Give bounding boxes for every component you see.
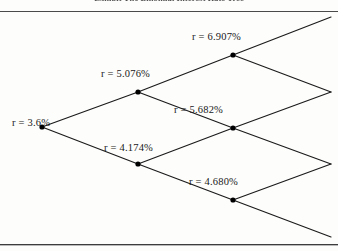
figure-caption: Exhibit The Binomial Interest Rate Tree — [0, 0, 338, 3]
rate-label-down-2: r = 4.680% — [189, 176, 238, 187]
branch-n2u-down — [233, 55, 331, 92]
rate-label-up-2: r = 6.907% — [192, 31, 241, 42]
node-down-2[interactable] — [230, 197, 235, 202]
rate-label-root: r = 3.6% — [12, 117, 50, 128]
rate-label-mid-2: r = 5.682% — [174, 104, 223, 115]
rate-label-up-1: r = 5.076% — [101, 68, 150, 79]
branch-n0-n1u — [42, 92, 138, 127]
branch-n2u-up — [233, 17, 331, 55]
node-down-1[interactable] — [135, 161, 140, 166]
rate-label-down-1: r = 4.174% — [104, 142, 153, 153]
branch-n2m-up — [233, 92, 331, 128]
bottom-rule-shadow — [0, 245, 338, 246]
branch-n1u-n2u — [138, 55, 233, 92]
binomial-tree-svg — [0, 11, 338, 244]
node-up-1[interactable] — [135, 89, 140, 94]
binomial-tree-canvas: r = 3.6% r = 5.076% r = 4.174% r = 6.907… — [0, 11, 338, 244]
node-mid-2[interactable] — [230, 125, 235, 130]
branch-n2d-up — [233, 164, 331, 200]
figure-caption-strip: Exhibit The Binomial Interest Rate Tree — [0, 0, 338, 8]
figure-root: Exhibit The Binomial Interest Rate Tree — [0, 0, 338, 251]
branch-n2m-down — [233, 128, 331, 164]
tree-branches — [42, 17, 331, 237]
node-up-2[interactable] — [230, 52, 235, 57]
branch-n2d-down — [233, 200, 331, 237]
